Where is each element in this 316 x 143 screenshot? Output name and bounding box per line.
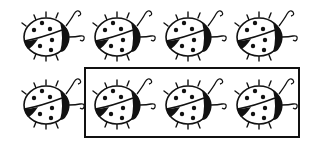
ladybug-icon bbox=[16, 8, 86, 64]
ladybug-icon bbox=[158, 8, 228, 64]
ladybug-icon bbox=[87, 76, 157, 132]
ladybug-icon bbox=[229, 76, 299, 132]
ladybug-icon bbox=[229, 8, 299, 64]
ladybug-icon bbox=[16, 76, 86, 132]
ladybug-icon bbox=[87, 8, 157, 64]
ladybug-icon bbox=[158, 76, 228, 132]
